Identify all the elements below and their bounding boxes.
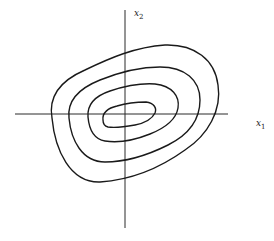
- contour-diagram: x2 x1: [0, 0, 274, 241]
- contour-level-4: [51, 45, 218, 182]
- x2-axis-label: x2: [134, 8, 144, 21]
- contour-level-1: [103, 102, 156, 127]
- x1-axis-label: x1: [256, 118, 266, 131]
- contour-level-2: [88, 84, 178, 142]
